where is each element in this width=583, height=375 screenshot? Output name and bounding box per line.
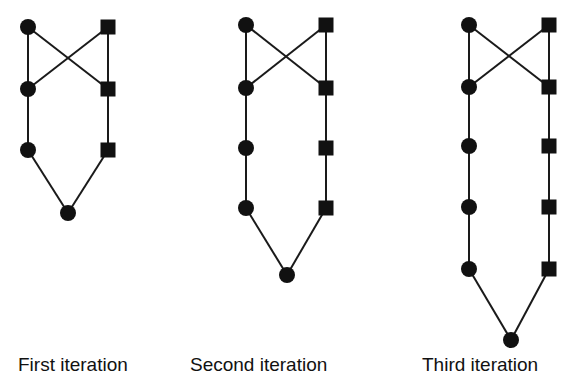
square-node-icon (542, 139, 557, 154)
square-node-icon (319, 201, 334, 216)
circle-node-icon (461, 79, 477, 95)
caption-third: Third iteration (422, 354, 538, 375)
square-node-icon (542, 80, 557, 95)
circle-node-icon (238, 140, 254, 156)
edge-bottom (28, 150, 68, 213)
edge-bottom (246, 208, 287, 275)
square-node-icon (319, 141, 334, 156)
square-node-icon (319, 81, 334, 96)
circle-node-icon (461, 138, 477, 154)
circle-node-icon (279, 267, 295, 283)
circle-node-icon (20, 142, 36, 158)
square-node-icon (542, 200, 557, 215)
square-node-icon (542, 262, 557, 277)
circle-node-icon (461, 261, 477, 277)
circle-node-icon (238, 200, 254, 216)
circle-node-icon (238, 80, 254, 96)
circle-node-icon (20, 81, 36, 97)
edge-bottom (68, 150, 108, 213)
square-node-icon (101, 143, 116, 158)
circle-node-icon (20, 19, 36, 35)
square-node-icon (542, 18, 557, 33)
square-node-icon (101, 82, 116, 97)
caption-second: Second iteration (190, 354, 327, 375)
circle-node-icon (461, 17, 477, 33)
caption-first: First iteration (18, 354, 128, 375)
circle-node-icon (461, 199, 477, 215)
circle-node-icon (238, 17, 254, 33)
edge-bottom (469, 269, 511, 340)
edge-bottom (511, 269, 549, 340)
square-node-icon (101, 20, 116, 35)
circle-node-icon (60, 205, 76, 221)
circle-node-icon (503, 332, 519, 348)
edge-bottom (287, 208, 326, 275)
square-node-icon (319, 18, 334, 33)
